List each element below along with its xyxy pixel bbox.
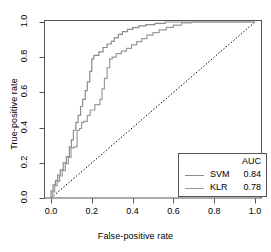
y-axis-title: True-positive rate: [9, 54, 19, 174]
legend-swatch-svm: [185, 175, 204, 176]
x-tick-label: 0.6: [158, 206, 188, 216]
legend-value-klr: 0.78: [243, 182, 261, 192]
roc-chart: False-positive rate True-positive rate 0…: [0, 0, 271, 252]
x-tick-label: 0.2: [77, 206, 107, 216]
legend: AUC SVM 0.84 KLR 0.78: [178, 153, 267, 197]
x-tick-label: 1.0: [240, 206, 270, 216]
x-tick-label: 0.0: [36, 206, 66, 216]
legend-title: AUC: [242, 156, 261, 166]
y-tick-label: 0.0: [19, 184, 29, 210]
y-tick-label: 0.4: [19, 114, 29, 140]
y-tick-label: 0.2: [19, 149, 29, 175]
x-axis-title: False-positive rate: [0, 231, 271, 241]
y-tick-label: 0.6: [19, 78, 29, 104]
x-tick-label: 0.4: [118, 206, 148, 216]
y-tick-label: 0.8: [19, 43, 29, 69]
y-axis-ticks: [40, 23, 45, 199]
legend-row-svm: SVM 0.84: [179, 169, 266, 182]
legend-label-svm: SVM: [210, 169, 230, 179]
legend-swatch-klr: [185, 188, 204, 189]
legend-label-klr: KLR: [210, 182, 228, 192]
legend-value-svm: 0.84: [243, 169, 261, 179]
x-tick-label: 0.8: [199, 206, 229, 216]
y-tick-label: 1.0: [19, 8, 29, 34]
legend-row-klr: KLR 0.78: [179, 182, 266, 195]
x-axis-ticks: [52, 199, 256, 204]
